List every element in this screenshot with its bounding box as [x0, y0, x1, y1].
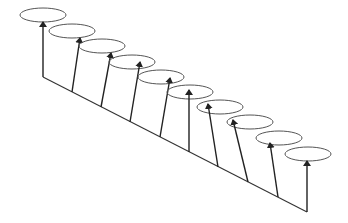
diagram-canvas — [0, 0, 348, 223]
ellipse-10 — [285, 147, 331, 161]
arrow-5 — [160, 78, 170, 137]
ellipse-7 — [197, 100, 243, 114]
ellipse-arrow-diagram — [0, 0, 348, 223]
arrow-9 — [270, 143, 278, 197]
ellipse-5 — [138, 70, 184, 84]
ellipse-group — [20, 8, 331, 212]
ellipse-3 — [79, 39, 125, 53]
ellipse-1 — [20, 8, 66, 22]
ellipse-2 — [49, 24, 95, 38]
ellipse-9 — [256, 131, 302, 145]
ellipse-6 — [167, 85, 213, 99]
arrow-4 — [130, 62, 140, 122]
ellipse-4 — [109, 55, 155, 69]
